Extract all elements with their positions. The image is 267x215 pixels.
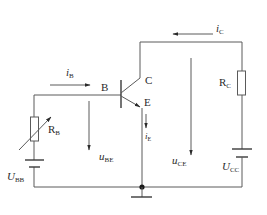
ube-label: uBE [99, 150, 113, 164]
rb-variable-resistor[interactable] [19, 117, 51, 150]
ubb-battery[interactable] [25, 160, 44, 167]
ground-icon [131, 187, 152, 197]
npn-transistor[interactable] [121, 78, 140, 108]
circuit-diagram: RB UBB B C E RC UCC iB [0, 0, 267, 215]
ubb-label: UBB [7, 170, 25, 184]
rc-resistor[interactable] [238, 71, 246, 95]
ib-label: iB [66, 66, 74, 80]
ic-label: iC [216, 22, 224, 36]
emitter-terminal-label: E [144, 96, 151, 108]
ie-label: iE [145, 131, 152, 142]
collector-terminal-label: C [145, 74, 152, 86]
uce-label: uCE [172, 154, 186, 168]
ucc-label: UCC [222, 160, 240, 174]
ucc-battery[interactable] [232, 149, 252, 157]
base-loop-wires [34, 95, 142, 187]
base-terminal-label: B [101, 81, 108, 93]
rb-label: RB [48, 123, 60, 137]
rc-label: RC [219, 76, 231, 90]
